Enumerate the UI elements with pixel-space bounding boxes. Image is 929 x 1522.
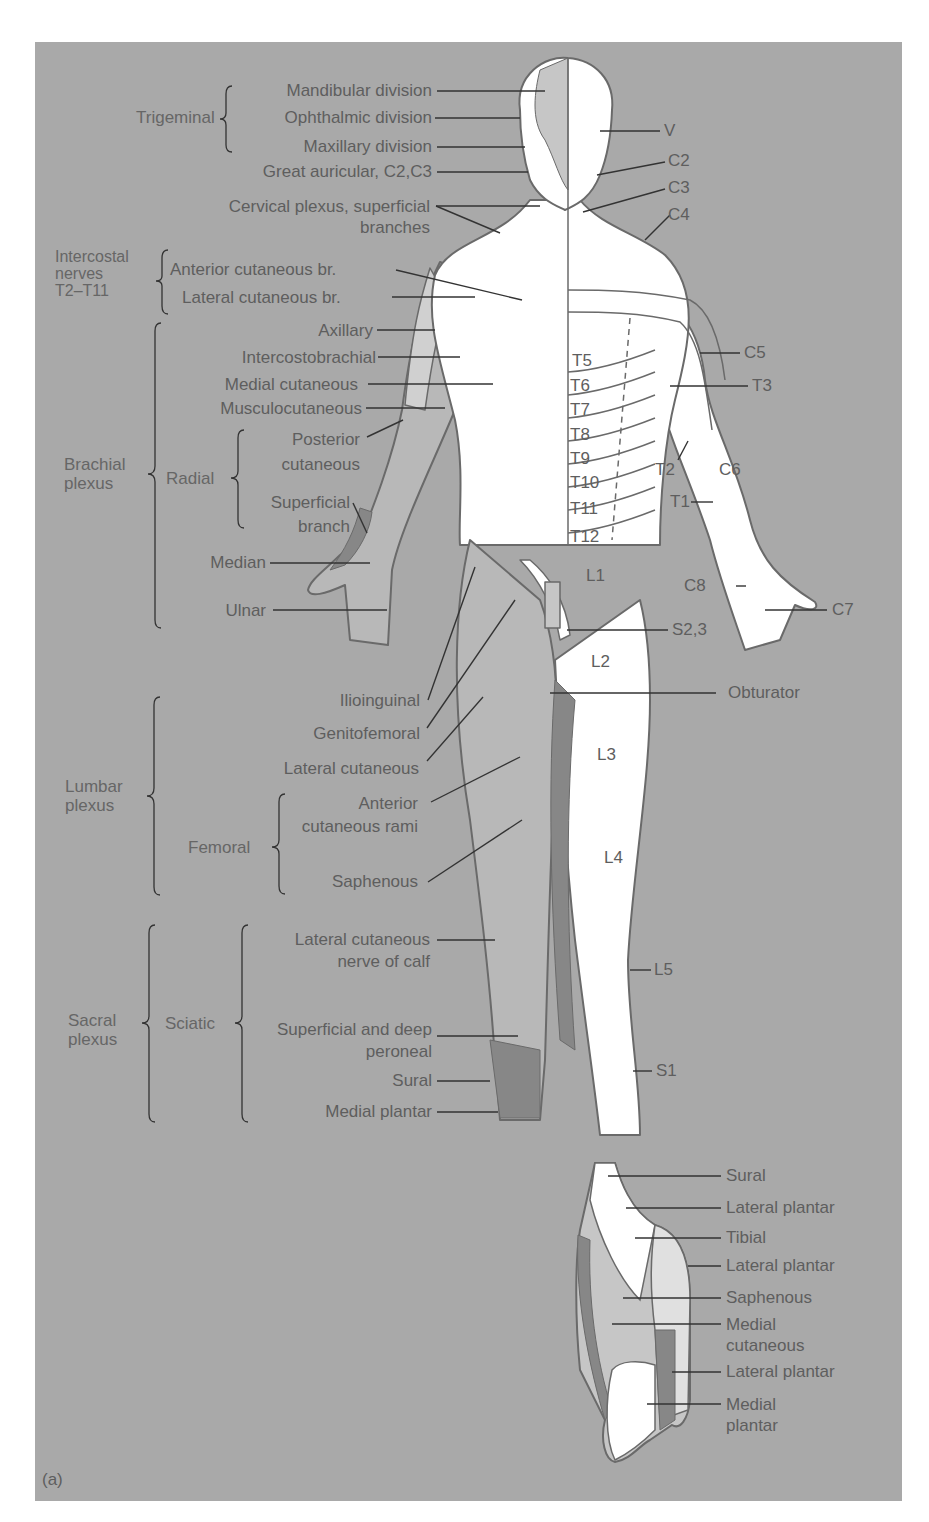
label-mandibular-division: Mandibular division (236, 81, 432, 100)
group-sacral-line: Sacral (68, 1011, 117, 1030)
label-C6: C6 (719, 460, 741, 479)
label-T9: T9 (570, 449, 590, 468)
label-S1: S1 (656, 1061, 677, 1080)
label-obturator: Obturator (728, 683, 800, 702)
label-medial-cutaneous: Medial cutaneous (170, 375, 358, 394)
group-sacral-plexus: Sacral plexus (68, 1011, 117, 1049)
label-C8: C8 (684, 576, 706, 595)
group-brachial-line: Brachial (64, 455, 125, 474)
right-leg (555, 600, 650, 1135)
label-T8: T8 (570, 425, 590, 444)
label-great-auricular: Great auricular, C2,C3 (180, 162, 432, 181)
group-femoral: Femoral (188, 838, 250, 857)
label-L3: L3 (597, 745, 616, 764)
label-ulnar: Ulnar (180, 601, 266, 620)
group-intercostal-line: T2–T11 (55, 282, 129, 299)
brace-femoral (272, 794, 285, 894)
group-lumbar-line: Lumbar (65, 777, 123, 796)
label-S2-3: S2,3 (672, 620, 707, 639)
label-L4: L4 (604, 848, 623, 867)
label-T1: T1 (670, 492, 690, 511)
foot-label-sural: Sural (726, 1166, 766, 1185)
brace-radial (231, 430, 244, 528)
label-saphenous: Saphenous (300, 872, 418, 891)
group-lumbar-line: plexus (65, 796, 123, 815)
torso (432, 200, 689, 545)
label-C7: C7 (832, 600, 854, 619)
label-C5: C5 (744, 343, 766, 362)
foot-label-lateral-plantar-3: Lateral plantar (726, 1362, 835, 1381)
label-medial-plantar: Medial plantar (270, 1102, 432, 1121)
label-axillary: Axillary (200, 321, 373, 340)
label-genitofemoral: Genitofemoral (260, 724, 420, 743)
label-lateral-cutaneous-br: Lateral cutaneous br. (182, 288, 341, 307)
label-maxillary-division: Maxillary division (236, 137, 432, 156)
group-brachial-line: plexus (64, 474, 125, 493)
foot-label-lateral-plantar-1: Lateral plantar (726, 1198, 835, 1217)
label-posterior-cutaneous: Posterior cutaneous (250, 427, 360, 477)
label-T6: T6 (570, 376, 590, 395)
group-intercostal: Intercostal nerves T2–T11 (55, 248, 129, 299)
brace-trigeminal (220, 86, 232, 152)
foot-label-medial-cutaneous: Medial cutaneous (726, 1314, 836, 1356)
panel-label: (a) (42, 1470, 63, 1489)
brace-sciatic (235, 925, 248, 1122)
brace-sacral (142, 925, 155, 1122)
label-intercostobrachial: Intercostobrachial (180, 348, 376, 367)
label-T5: T5 (572, 351, 592, 370)
label-lateral-cutaneous-nerve-of-calf: Lateral cutaneous nerve of calf (250, 929, 430, 973)
group-intercostal-line: nerves (55, 265, 129, 282)
label-V: V (664, 121, 675, 140)
label-ilioinguinal: Ilioinguinal (260, 691, 420, 710)
label-musculocutaneous: Musculocutaneous (160, 399, 362, 418)
label-T2: T2 (655, 460, 675, 479)
brace-brachial (148, 323, 161, 628)
label-median: Median (180, 553, 266, 572)
label-T10: T10 (570, 473, 599, 492)
group-lumbar-plexus: Lumbar plexus (65, 777, 123, 815)
label-C2: C2 (668, 151, 690, 170)
label-L1: L1 (586, 566, 605, 585)
label-L2: L2 (591, 652, 610, 671)
label-C4: C4 (668, 205, 690, 224)
foot-label-lateral-plantar-2: Lateral plantar (726, 1256, 835, 1275)
label-T3: T3 (752, 376, 772, 395)
group-brachial-plexus: Brachial plexus (64, 455, 125, 493)
label-cervical-plexus: Cervical plexus, superficial branches (200, 196, 430, 238)
foot-label-tibial: Tibial (726, 1228, 766, 1247)
foot-label-saphenous: Saphenous (726, 1288, 812, 1307)
group-trigeminal: Trigeminal (136, 108, 215, 127)
label-T7: T7 (570, 400, 590, 419)
label-C3: C3 (668, 178, 690, 197)
label-T12: T12 (570, 527, 599, 546)
label-ophthalmic-division: Ophthalmic division (236, 108, 432, 127)
label-sural: Sural (330, 1071, 432, 1090)
foot-label-medial-plantar: Medial plantar (726, 1394, 806, 1436)
group-radial: Radial (166, 469, 214, 488)
group-intercostal-line: Intercostal (55, 248, 129, 265)
label-lateral-cutaneous: Lateral cutaneous (220, 759, 419, 778)
label-superficial-branch: Superficial branch (245, 491, 350, 539)
label-anterior-cutaneous-br: Anterior cutaneous br. (170, 260, 336, 279)
group-sacral-line: plexus (68, 1030, 117, 1049)
group-sciatic: Sciatic (165, 1014, 215, 1033)
label-anterior-cutaneous-rami: Anterior cutaneous rami (300, 792, 418, 838)
brace-lumbar (147, 697, 160, 895)
label-L5: L5 (654, 960, 673, 979)
label-superficial-deep-peroneal: Superficial and deep peroneal (270, 1019, 432, 1063)
label-T11: T11 (570, 499, 598, 518)
brace-intercostal (156, 250, 168, 314)
